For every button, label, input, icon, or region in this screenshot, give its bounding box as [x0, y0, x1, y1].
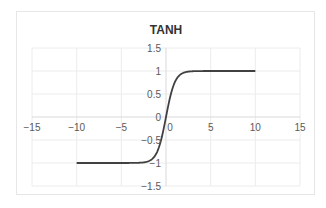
x-tick-label: 5 — [208, 122, 214, 133]
chart-title: TANH — [150, 23, 182, 37]
tanh-chart: −15−10−5051015−1.5−1−0.500.511.5 TANH — [0, 0, 326, 208]
y-tick-label: −1 — [150, 158, 162, 169]
y-tick-label: −0.5 — [141, 135, 161, 146]
y-tick-label: 0.5 — [147, 89, 161, 100]
y-tick-label: 1.5 — [147, 43, 161, 54]
y-tick-label: 1 — [155, 66, 161, 77]
x-tick-label: −5 — [116, 122, 128, 133]
x-tick-label: 15 — [294, 122, 306, 133]
x-tick-label: −15 — [24, 122, 41, 133]
x-tick-label: 0 — [167, 122, 173, 133]
x-tick-label: 10 — [250, 122, 262, 133]
y-tick-label: 0 — [155, 112, 161, 123]
x-tick-label: −10 — [68, 122, 85, 133]
y-tick-label: −1.5 — [141, 181, 161, 192]
